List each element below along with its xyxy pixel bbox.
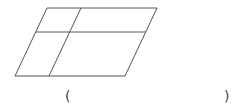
answer-blank[interactable] [78,88,218,104]
open-paren: ( [65,88,70,104]
parallelogram-outline [15,8,157,76]
slanted-divider [49,8,81,76]
close-paren: ) [224,88,229,104]
